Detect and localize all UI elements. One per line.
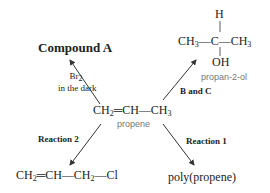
propan-2-ol-oh-group: OH <box>212 55 229 70</box>
propan-2-ol-h-atom: H <box>215 7 224 22</box>
propan-2-ol-formula: CH3—C—CH3 <box>178 34 251 49</box>
reaction-1-label: Reaction 1 <box>186 136 227 146</box>
reagent-b-and-c: B and C <box>180 86 212 96</box>
reagent-br2-conditions: Br2 in the dark <box>58 70 94 94</box>
propene-formula: CH2═CH—CH3 <box>93 103 172 118</box>
propan-2-ol-name: propan-2-ol <box>201 72 247 82</box>
polypropene-label: poly(propene) <box>168 170 236 185</box>
reagent-in-the-dark: in the dark <box>58 83 97 93</box>
reagent-br2: Br2 <box>70 71 83 81</box>
propene-name: propene <box>117 119 150 129</box>
arrows-layer <box>0 0 270 193</box>
allyl-chloride-formula: CH2═CH—CH2—Cl <box>16 168 118 183</box>
arrow-to-allyl-chloride <box>70 124 101 165</box>
reaction-2-label: Reaction 2 <box>38 134 79 144</box>
compound-a-label: Compound A <box>38 40 112 56</box>
